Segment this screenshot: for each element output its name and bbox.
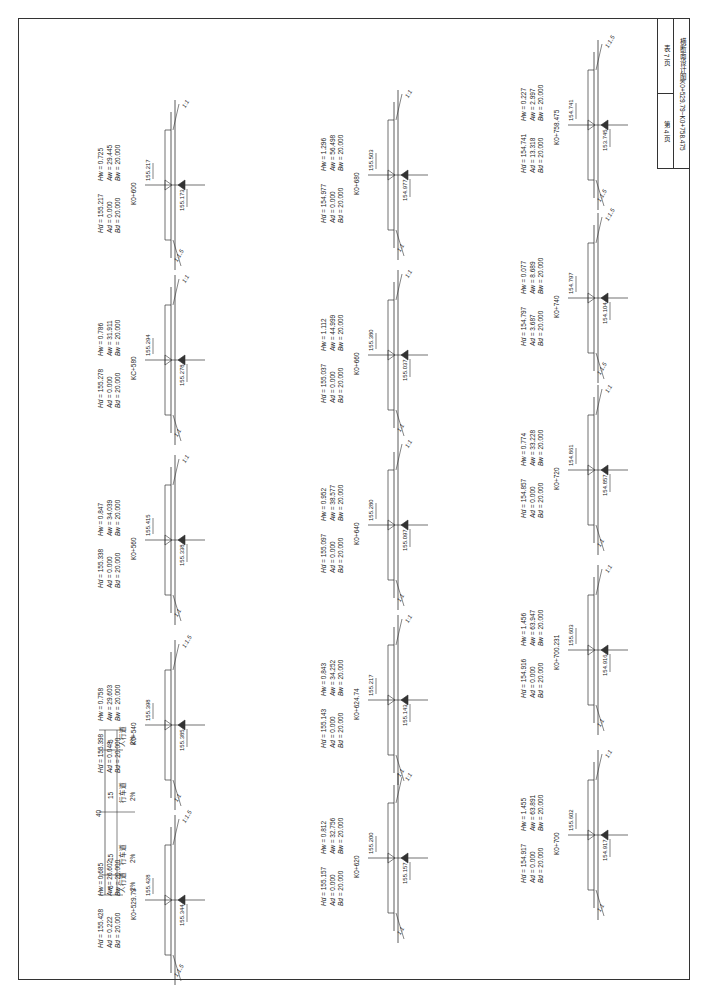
- cut-values: Hw = 0.227 Aw = 2.997 Bw = 20.000: [520, 85, 546, 121]
- fill-area: 13.318: [529, 138, 536, 158]
- right-elevation: 155.173: [179, 189, 185, 211]
- cut-area: 33.228: [529, 430, 536, 450]
- cut-height: 0.843: [320, 663, 327, 679]
- left-elevation: 155.200: [368, 832, 374, 854]
- typical-section-lines: [95, 725, 185, 900]
- cut-values: Hw = 0.758 Aw = 29.603 Bw = 20.000: [97, 685, 123, 721]
- section-profile: [268, 440, 468, 610]
- cut-values: Hw = 0.952 Aw = 38.577 Bw = 20.000: [320, 485, 346, 521]
- fill-area: 0.000: [329, 371, 336, 387]
- cut-area: 31.911: [106, 320, 113, 339]
- right-elevation: 154.857: [602, 474, 608, 496]
- section-profile: [468, 750, 668, 920]
- cut-area: 56.498: [329, 135, 336, 155]
- fill-height: 155.097: [320, 534, 327, 558]
- cross-section: 154.741 153.745 K0+758.475 Hd = 154.741 …: [468, 40, 668, 210]
- fill-width: 20.000: [537, 848, 544, 868]
- left-elevation: 155.280: [368, 499, 374, 521]
- cut-width: 20.000: [337, 315, 344, 335]
- left-elevation: 154.741: [568, 99, 574, 121]
- cut-area: 29.603: [106, 685, 113, 705]
- cross-section: 155.294 155.278 KC+580 Hd = 155.278 Ad =…: [45, 275, 245, 445]
- section-profile: [268, 90, 468, 260]
- cut-values: Hw = 0.786 Aw = 31.911 Bw = 20.000: [97, 320, 123, 356]
- cut-area: 63.947: [529, 610, 536, 630]
- fill-height: 154.916: [520, 659, 527, 683]
- typical-part-label: 行车道: [119, 782, 127, 803]
- typical-part-slope: 2%: [129, 854, 137, 863]
- cut-area: 8.689: [529, 261, 536, 277]
- fill-area: 0.000: [106, 556, 113, 572]
- cut-values: Hw = 1.296 Aw = 56.498 Bw = 20.000: [320, 135, 346, 171]
- station-label: K0+640: [353, 522, 361, 545]
- fill-width: 20.000: [337, 188, 344, 208]
- fill-width: 20.000: [114, 913, 121, 933]
- cut-height: 1.455: [520, 798, 527, 814]
- station-label: K0+560: [130, 537, 138, 560]
- typical-part-width: 15: [107, 854, 115, 861]
- typical-part-label: 人行道: [119, 726, 127, 747]
- station-label: K0+680: [353, 172, 361, 195]
- fill-area: 0.000: [106, 376, 113, 392]
- typical-part-width: 5: [107, 885, 115, 889]
- typical-part-slope: 2%: [129, 882, 137, 891]
- left-elevation: 155.294: [145, 334, 151, 356]
- cut-height: 0.812: [320, 821, 327, 837]
- fill-values: Hd = 155.157 Ad = 0.000 Bd = 20.000: [320, 867, 346, 906]
- cut-values: Hw = 0.725 Aw = 29.445 Bw = 20.000: [97, 145, 123, 181]
- fill-width: 20.000: [537, 311, 544, 331]
- fill-height: 155.278: [97, 369, 104, 393]
- left-elevation: 155.602: [568, 809, 574, 831]
- fill-area: 3.687: [529, 314, 536, 330]
- right-elevation: 153.745: [602, 129, 608, 151]
- station-label: K0+740: [553, 295, 561, 318]
- left-elevation: 155.603: [568, 624, 574, 646]
- right-elevation: 155.278: [179, 364, 185, 386]
- cross-section: 155.280 155.097 K0+640 Hd = 155.097 Ad =…: [268, 440, 468, 610]
- cut-width: 20.000: [114, 320, 121, 340]
- fill-values: Hd = 154.916 Ad = 0.000 Bd = 20.000: [520, 659, 546, 698]
- fill-area: 0.000: [329, 191, 336, 207]
- typical-part-label: 人行道: [119, 872, 127, 893]
- fill-values: Hd = 155.428 Ad = 0.222 Bd = 20.000: [97, 909, 123, 948]
- cut-height: 0.847: [97, 503, 104, 519]
- cut-values: Hw = 0.812 Aw = 32.756 Bw = 20.000: [320, 818, 346, 854]
- right-elevation: 154.917: [602, 839, 608, 861]
- fill-height: 155.338: [97, 549, 104, 573]
- fill-height: 155.217: [97, 194, 104, 218]
- fill-area: 0.000: [329, 716, 336, 732]
- left-elevation: 155.398: [145, 699, 151, 721]
- cut-values: Hw = 1.455 Aw = 63.891 Bw = 20.000: [520, 795, 546, 831]
- right-elevation: 154.977: [402, 179, 408, 201]
- typical-part-width: 5: [107, 739, 115, 743]
- fill-values: Hd = 155.217 Ad = 0.000 Bd = 20.000: [97, 194, 123, 233]
- station-label: K0+720: [553, 467, 561, 490]
- fill-area: 0.222: [106, 916, 113, 932]
- station-label: K0+624.74: [353, 688, 361, 720]
- right-elevation: 155.157: [402, 862, 408, 884]
- section-profile: [45, 455, 245, 625]
- cut-height: 0.774: [520, 433, 527, 449]
- cut-area: 38.577: [329, 485, 336, 505]
- cut-height: 0.227: [520, 88, 527, 104]
- cut-values: Hw = 1.456 Aw = 63.947 Bw = 20.000: [520, 610, 546, 646]
- fill-height: 155.037: [320, 364, 327, 388]
- cut-area: 29.445: [106, 145, 113, 165]
- fill-values: Hd = 154.977 Ad = 0.000 Bd = 20.000: [320, 184, 346, 223]
- section-profile: [268, 615, 468, 785]
- cut-values: Hw = 1.112 Aw = 44.999 Bw = 20.000: [320, 315, 346, 351]
- section-profile: [45, 100, 245, 270]
- section-profile: [45, 275, 245, 445]
- right-elevation: 155.097: [402, 529, 408, 551]
- right-elevation: 155.037: [402, 359, 408, 381]
- fill-height: 154.977: [320, 184, 327, 208]
- station-label: K0+700: [553, 832, 561, 855]
- cut-area: 34.252: [329, 660, 336, 680]
- fill-area: 0.000: [529, 666, 536, 682]
- right-elevation: 154.916: [602, 654, 608, 676]
- section-profile: [468, 565, 668, 735]
- left-elevation: 155.503: [368, 149, 374, 171]
- fill-height: 155.143: [320, 709, 327, 733]
- fill-values: Hd = 155.037 Ad = 0.000 Bd = 20.000: [320, 364, 346, 403]
- fill-width: 20.000: [337, 871, 344, 891]
